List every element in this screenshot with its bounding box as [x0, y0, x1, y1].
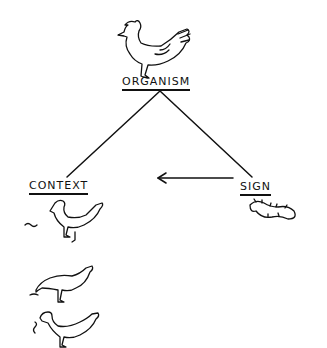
- diagram-canvas: [0, 0, 327, 348]
- organism-label: ORGANISM: [122, 76, 190, 91]
- context-label: CONTEXT: [29, 180, 88, 195]
- organism-sign-line: [160, 91, 252, 177]
- hen-icon: [118, 21, 190, 78]
- organism-context-line: [67, 91, 160, 177]
- sign-label: SIGN: [240, 181, 271, 196]
- caterpillar-icon: [250, 199, 295, 219]
- hen-eats-worm-icon: [34, 312, 99, 347]
- hen-sees-worm-icon: [25, 200, 103, 242]
- sign-to-context-arrow: [158, 173, 233, 183]
- hen-pecks-worm-icon: [30, 266, 93, 302]
